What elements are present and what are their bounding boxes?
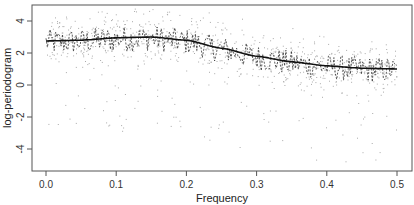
x-axis-title: Frequency	[196, 192, 248, 204]
x-tick-label: 0.2	[179, 179, 193, 190]
chart-area: -4-2024 0.00.10.20.30.40.5 Frequency log…	[0, 0, 414, 205]
y-axis-title: log-periodogram	[1, 48, 13, 128]
y-tick-label: 4	[15, 18, 26, 24]
y-tick-label: 0	[15, 82, 26, 88]
mean-dashed-line	[46, 27, 397, 82]
x-tick-label: 0.5	[390, 179, 404, 190]
x-tick-label: 0.4	[320, 179, 334, 190]
x-tick-label: 0.1	[109, 179, 123, 190]
scatter-points	[47, 9, 397, 163]
x-tick-label: 0.0	[39, 179, 53, 190]
x-tick-label: 0.3	[250, 179, 264, 190]
y-tick-label: 2	[15, 50, 26, 56]
y-axis: -4-2024	[15, 18, 32, 154]
y-tick-label: -2	[15, 112, 26, 121]
y-tick-label: -4	[15, 144, 26, 153]
x-axis: 0.00.10.20.30.40.5	[39, 171, 404, 190]
